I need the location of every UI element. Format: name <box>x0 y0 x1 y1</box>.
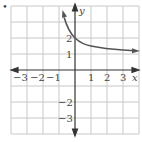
y-tick-neg3: −3 <box>58 113 73 124</box>
graph-figure: • y x −3 −2 −1 1 2 3 2 1 −2 −3 <box>0 0 142 142</box>
x-tick-1: 1 <box>88 72 94 83</box>
bullet-marker: • <box>2 1 8 12</box>
x-tick-2: 2 <box>104 72 110 83</box>
x-tick-neg3: −3 <box>13 72 28 83</box>
x-tick-neg1: −1 <box>46 72 61 83</box>
x-tick-neg2: −2 <box>30 72 45 83</box>
y-tick-neg2: −2 <box>58 97 73 108</box>
x-axis-label: x <box>132 72 138 83</box>
y-tick-1: 1 <box>66 49 72 60</box>
y-tick-2: 2 <box>66 33 72 44</box>
x-tick-3: 3 <box>120 72 126 83</box>
exponential-curve <box>62 10 140 53</box>
curve-arrow-left <box>62 10 67 18</box>
y-axis-label: y <box>78 5 85 16</box>
